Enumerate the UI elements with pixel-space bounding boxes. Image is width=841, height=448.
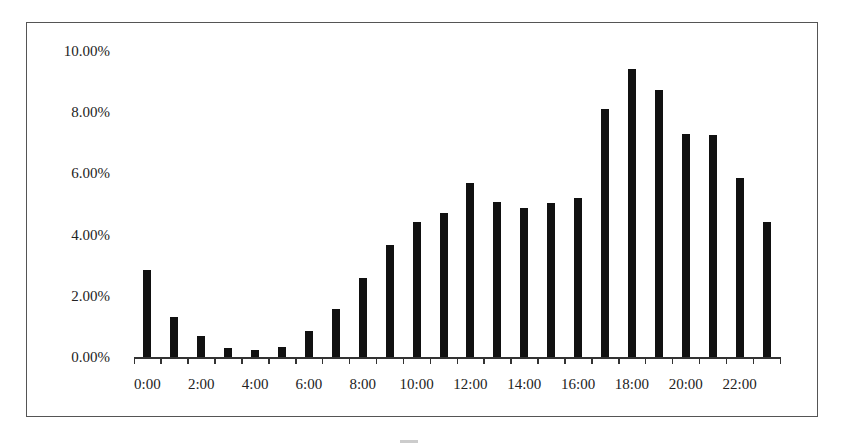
x-tick-label: 4:00 <box>242 376 269 392</box>
bar-17-00 <box>601 109 609 357</box>
x-tick-mark <box>241 357 243 364</box>
x-tick-mark <box>268 357 270 364</box>
x-tick-mark <box>457 357 459 364</box>
bar-22-00 <box>736 178 744 357</box>
x-tick-mark <box>672 357 674 364</box>
bar-12-00 <box>466 183 474 357</box>
x-tick-label: 12:00 <box>453 376 487 392</box>
y-tick-label: 4.00% <box>71 227 110 243</box>
figure-caption-partial <box>400 436 440 448</box>
y-tick-label: 6.00% <box>71 165 110 181</box>
bar-23-00 <box>763 222 771 357</box>
bar-1-00 <box>170 317 178 357</box>
x-tick-label: 0:00 <box>134 376 161 392</box>
bar-0-00 <box>143 270 151 357</box>
x-tick-mark <box>376 357 378 364</box>
y-tick-label: 0.00% <box>71 349 110 365</box>
x-tick-mark <box>403 357 405 364</box>
bar-8-00 <box>359 278 367 357</box>
x-tick-mark <box>430 357 432 364</box>
bar-16-00 <box>574 198 582 357</box>
bar-15-00 <box>547 203 555 357</box>
bar-6-00 <box>305 331 313 357</box>
bar-14-00 <box>520 208 528 357</box>
x-tick-mark <box>160 357 162 364</box>
x-tick-label: 10:00 <box>400 376 434 392</box>
bar-4-00 <box>251 350 259 357</box>
x-tick-mark <box>564 357 566 364</box>
bar-9-00 <box>386 245 394 357</box>
x-tick-label: 14:00 <box>507 376 541 392</box>
x-tick-mark <box>295 357 297 364</box>
x-tick-label: 6:00 <box>296 376 323 392</box>
x-tick-mark <box>214 357 216 364</box>
x-tick-mark <box>726 357 728 364</box>
x-tick-mark <box>591 357 593 364</box>
x-tick-mark <box>645 357 647 364</box>
bar-21-00 <box>709 135 717 357</box>
x-tick-mark <box>510 357 512 364</box>
x-tick-mark <box>618 357 620 364</box>
bar-7-00 <box>332 309 340 357</box>
x-tick-label: 22:00 <box>723 376 757 392</box>
x-tick-mark <box>699 357 701 364</box>
x-tick-label: 8:00 <box>349 376 376 392</box>
bar-5-00 <box>278 347 286 357</box>
y-tick-label: 10.00% <box>64 43 110 59</box>
x-tick-label: 18:00 <box>615 376 649 392</box>
bar-10-00 <box>413 222 421 357</box>
bar-20-00 <box>682 134 690 357</box>
x-tick-mark <box>134 357 136 364</box>
x-tick-mark <box>187 357 189 364</box>
x-tick-label: 20:00 <box>669 376 703 392</box>
x-tick-mark <box>780 357 782 364</box>
bar-13-00 <box>493 202 501 357</box>
y-tick-label: 2.00% <box>71 288 110 304</box>
bar-19-00 <box>655 90 663 357</box>
x-tick-mark <box>753 357 755 364</box>
bar-3-00 <box>224 348 232 357</box>
x-tick-mark <box>322 357 324 364</box>
bar-11-00 <box>440 213 448 357</box>
bar-2-00 <box>197 336 205 357</box>
x-tick-label: 16:00 <box>561 376 595 392</box>
x-tick-mark <box>349 357 351 364</box>
x-tick-mark <box>537 357 539 364</box>
x-tick-mark <box>483 357 485 364</box>
y-tick-label: 8.00% <box>71 104 110 120</box>
x-tick-label: 2:00 <box>188 376 215 392</box>
bar-18-00 <box>628 69 636 357</box>
